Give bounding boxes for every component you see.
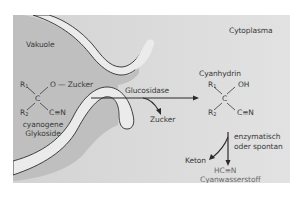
hcn-name: Cyanwasserstoff — [200, 176, 261, 183]
condition-line1: enzymatisch — [234, 133, 280, 141]
enzyme-label: Glucosidase — [125, 87, 169, 95]
cyanohydrin-carbon: C — [222, 95, 227, 103]
glycoside-nitrile: C≡N — [49, 109, 66, 117]
glycoside-r1: R1 — [20, 81, 28, 89]
cyanohydrin-nitrile: C≡N — [237, 109, 254, 117]
ketone-label: Keton — [185, 157, 206, 165]
glycoside-o-sugar: O — Zucker — [50, 81, 93, 89]
condition-line2: oder spontan — [234, 143, 283, 151]
cyanohydrin-r1: R1 — [208, 81, 216, 89]
glycoside-name-line1: cyanogene — [21, 121, 65, 129]
diagram-panel: Vakuole Cytoplasma R1 O — Zucker C R2 C≡… — [13, 15, 290, 183]
glycoside-carbon: C — [35, 95, 40, 103]
hcn-formula: HC≡N — [214, 167, 236, 175]
cyanohydrin-oh: OH — [238, 81, 249, 89]
glycoside-name-line2: Glykoside — [21, 130, 65, 138]
vacuole-label: Vakuole — [26, 41, 55, 49]
cyanohydrin-r2: R2 — [208, 109, 216, 117]
sugar-byproduct-label: Zucker — [150, 116, 175, 124]
glycoside-r2: R2 — [20, 109, 28, 117]
cytoplasm-label: Cytoplasma — [229, 27, 272, 35]
cyanohydrin-name: Cyanhydrin — [199, 70, 241, 78]
